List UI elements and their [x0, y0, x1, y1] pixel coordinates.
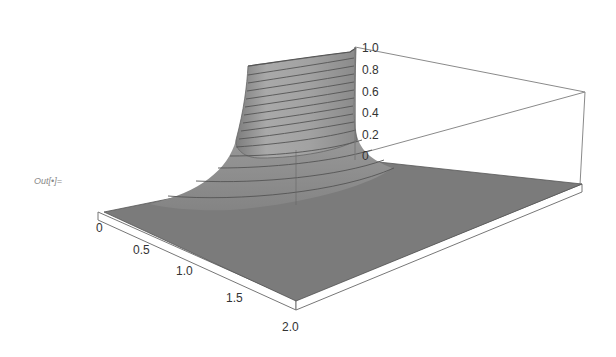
x-tick-label: 1.0	[176, 264, 193, 278]
z-tick-label: 1.0	[362, 41, 379, 55]
x-tick-label: 0.5	[133, 243, 150, 257]
z-tick-label: 0	[362, 149, 369, 163]
z-tick-label: 0.4	[362, 106, 379, 120]
surface-plot-3d[interactable]: 1.0 0.8 0.6 0.4 0.2 0 0 0.5 1.0 1.5 2.0	[0, 0, 616, 357]
z-tick-label: 0.6	[362, 85, 379, 99]
x-tick-label: 0	[96, 221, 103, 235]
z-tick-label: 0.2	[362, 128, 379, 142]
x-tick-label: 1.5	[226, 291, 243, 305]
z-tick-label: 0.8	[362, 63, 379, 77]
x-tick-label: 2.0	[282, 320, 299, 334]
